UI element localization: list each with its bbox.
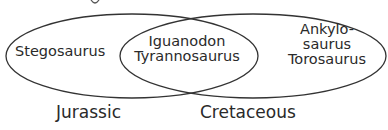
cut-off-title-glyph [91, 0, 99, 3]
tyrannosaurus-label: Tyrannosaurus [126, 49, 248, 64]
intersection-labels: Iguanodon Tyrannosaurus [126, 34, 248, 64]
stegosaurus-label: Stegosaurus [15, 44, 105, 59]
cretaceous-only-labels: Ankylo- saurus Torosaurus [272, 22, 382, 68]
ankylosaurus-label-part1: Ankylo- [272, 22, 382, 37]
cretaceous-set-label: Cretaceous [200, 104, 296, 122]
iguanodon-label: Iguanodon [126, 34, 248, 49]
jurassic-set-label: Jurassic [56, 104, 121, 122]
torosaurus-label: Torosaurus [272, 52, 382, 67]
ankylosaurus-label-part2: saurus [272, 37, 382, 52]
